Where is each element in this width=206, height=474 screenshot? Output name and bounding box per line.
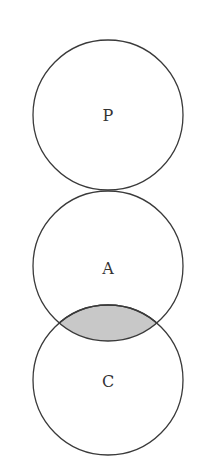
venn-diagram: P A C xyxy=(0,0,206,474)
label-a: A xyxy=(101,259,114,278)
label-p: P xyxy=(103,106,114,125)
label-c: C xyxy=(102,372,114,391)
